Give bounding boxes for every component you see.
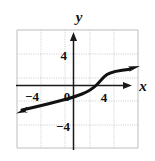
- x-tick-label-negative-4: −4: [25, 89, 39, 104]
- coordinate-plane-svg: y x 4 −4 −4 4 0: [0, 0, 155, 161]
- graph-figure: y x 4 −4 −4 4 0: [0, 0, 155, 161]
- x-axis-label: x: [138, 78, 147, 94]
- x-tick-label-positive-4: 4: [101, 90, 108, 105]
- y-tick-label-negative-4: −4: [56, 119, 70, 134]
- y-axis-label: y: [74, 9, 83, 25]
- y-tick-label-positive-4: 4: [61, 48, 68, 63]
- origin-label: 0: [64, 89, 71, 104]
